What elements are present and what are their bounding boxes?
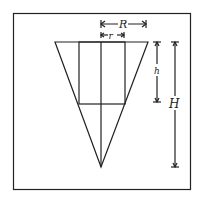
label-r: r <box>109 31 114 41</box>
label-h: h <box>154 66 160 76</box>
inscribed-cylinder <box>79 42 125 104</box>
label-R: R <box>118 18 127 31</box>
cone-cylinder-diagram: R r h H <box>0 0 199 200</box>
label-H: H <box>168 97 180 111</box>
